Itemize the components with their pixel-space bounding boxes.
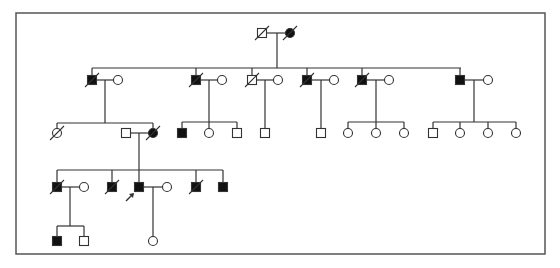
individual-IV-3 [135, 183, 144, 192]
female-circle-icon [218, 76, 227, 85]
individual-IV-1s [80, 183, 89, 192]
individual-II-2s [218, 76, 227, 85]
individual-II-3 [245, 73, 259, 87]
male-square-icon [122, 129, 131, 138]
female-circle-icon [330, 76, 339, 85]
individual-II-1s [114, 76, 123, 85]
individual-III-1 [50, 126, 64, 140]
individual-I-1 [255, 26, 269, 40]
individual-III-3 [178, 129, 187, 138]
male-square-icon [135, 183, 144, 192]
individual-III-10 [400, 129, 409, 138]
individual-II-6s [484, 76, 493, 85]
individual-V-1 [53, 237, 62, 246]
female-circle-icon [512, 129, 521, 138]
individual-III-11 [429, 129, 438, 138]
pedigree-diagram [0, 0, 560, 268]
individual-II-5s [385, 76, 394, 85]
individual-II-1 [85, 73, 99, 87]
individual-III-12 [456, 129, 465, 138]
female-circle-icon [163, 183, 172, 192]
individual-III-6 [261, 129, 270, 138]
female-circle-icon [400, 129, 409, 138]
individual-V-2 [80, 237, 89, 246]
male-square-icon [53, 237, 62, 246]
individual-IV-4 [189, 180, 203, 194]
individual-III-2 [146, 126, 160, 140]
male-square-icon [80, 237, 89, 246]
individual-II-4s [330, 76, 339, 85]
female-circle-icon [274, 76, 283, 85]
female-circle-icon [80, 183, 89, 192]
individual-III-9 [372, 129, 381, 138]
individual-II-4 [300, 73, 314, 87]
male-square-icon [317, 129, 326, 138]
individual-II-5 [355, 73, 369, 87]
individual-III-14 [512, 129, 521, 138]
female-circle-icon [372, 129, 381, 138]
male-square-icon [261, 129, 270, 138]
female-circle-icon [456, 129, 465, 138]
proband-arrow-icon [126, 193, 134, 201]
individual-IV-3s [163, 183, 172, 192]
individual-II-2 [189, 73, 203, 87]
individual-I-2 [283, 26, 297, 40]
female-circle-icon [149, 237, 158, 246]
female-circle-icon [484, 76, 493, 85]
individual-III-13 [484, 129, 493, 138]
female-circle-icon [205, 129, 214, 138]
female-circle-icon [114, 76, 123, 85]
male-square-icon [178, 129, 187, 138]
individual-IV-2 [105, 180, 119, 194]
diagram-frame [16, 13, 545, 254]
female-circle-icon [344, 129, 353, 138]
individuals [50, 26, 521, 246]
male-square-icon [233, 129, 242, 138]
individual-III-5 [233, 129, 242, 138]
male-square-icon [219, 183, 228, 192]
individual-III-4 [205, 129, 214, 138]
female-circle-icon [385, 76, 394, 85]
male-square-icon [456, 76, 465, 85]
individual-II-3s [274, 76, 283, 85]
male-square-icon [429, 129, 438, 138]
individual-II-6 [456, 76, 465, 85]
individual-V-3 [149, 237, 158, 246]
female-circle-icon [484, 129, 493, 138]
individual-III-2s [122, 129, 131, 138]
individual-III-7 [317, 129, 326, 138]
individual-IV-5 [219, 183, 228, 192]
individual-IV-1 [50, 180, 64, 194]
individual-III-8 [344, 129, 353, 138]
